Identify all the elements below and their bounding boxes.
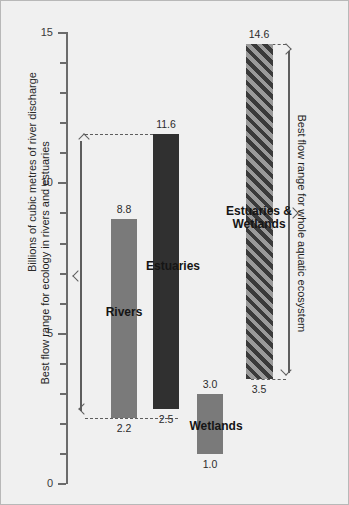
left-bracket-top-leader (85, 134, 153, 135)
bar-rivers-low-value: 2.2 (105, 423, 143, 434)
y-minor-tick-14 (60, 62, 66, 64)
bar-wetlands-label: Wetlands (175, 420, 257, 433)
right-bracket-bottom-leader (251, 379, 286, 380)
y-minor-tick-7 (60, 273, 66, 275)
bar-estuaries-wetlands-label: Estuaries & Wetlands (199, 205, 319, 232)
bar-estuaries-wetlands-low-value: 3.5 (240, 384, 278, 395)
y-tick-label-15: 15 (27, 27, 53, 38)
y-axis-line (66, 32, 68, 484)
left-bracket-label: Best flow range for ecology in rivers an… (40, 171, 51, 385)
y-minor-tick-4 (60, 363, 66, 365)
y-tick-10 (58, 182, 66, 184)
y-minor-tick-1 (60, 453, 66, 455)
bar-wetlands-low-value: 1.0 (191, 459, 229, 470)
y-minor-tick-11 (60, 152, 66, 154)
y-tick-15 (58, 32, 66, 34)
y-axis-title: Billions of cubic metres of river discha… (26, 57, 38, 287)
bar-estuaries-wetlands-high-value: 14.6 (240, 29, 278, 40)
bar-estuaries-wetlands-label-line2: Wetlands (232, 217, 285, 231)
y-minor-tick-13 (60, 92, 66, 94)
y-minor-tick-12 (60, 122, 66, 124)
y-minor-tick-8 (60, 243, 66, 245)
y-minor-tick-6 (60, 303, 66, 305)
right-bracket-bottom-corner (280, 364, 291, 375)
y-minor-tick-3 (60, 393, 66, 395)
y-minor-tick-2 (60, 423, 66, 425)
y-minor-tick-9 (60, 212, 66, 214)
y-tick-label-0: 0 (27, 478, 53, 489)
bar-estuaries-wetlands-label-line1: Estuaries & (226, 204, 292, 218)
bar-rivers-high-value: 8.8 (105, 204, 143, 215)
y-tick-5 (58, 333, 66, 335)
chart-figure: Billions of cubic metres of river discha… (0, 0, 349, 505)
bar-estuaries-high-value: 11.6 (147, 119, 185, 130)
bar-rivers-label: Rivers (89, 306, 159, 319)
y-tick-0 (58, 483, 66, 485)
bar-wetlands-high-value: 3.0 (191, 379, 229, 390)
bar-estuaries-label: Estuaries (132, 260, 214, 273)
